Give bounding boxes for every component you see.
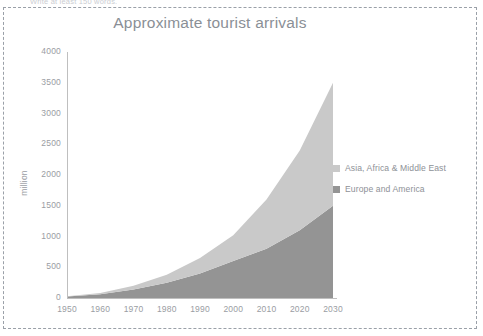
- series-layer: [67, 83, 333, 298]
- y-axis-tick-label: 3000: [15, 108, 61, 118]
- x-axis-tick-label: 2020: [283, 304, 317, 314]
- legend-item-label: Asia, Africa & Middle East: [345, 163, 446, 173]
- legend-swatch-icon: [333, 165, 340, 172]
- x-axis-tick-label: 2030: [316, 304, 350, 314]
- y-axis-tick-label: 1000: [15, 231, 61, 241]
- legend-item[interactable]: Europe and America: [333, 184, 446, 194]
- x-axis-tick-label: 1960: [83, 304, 117, 314]
- y-axis-tick-label: 2500: [15, 138, 61, 148]
- y-axis-title: million: [19, 153, 29, 213]
- x-axis-tick-label: 1980: [150, 304, 184, 314]
- x-axis-tick-label: 2010: [250, 304, 284, 314]
- y-axis-tick-label: 3500: [15, 77, 61, 87]
- legend-item[interactable]: Asia, Africa & Middle East: [333, 163, 446, 173]
- chart-legend: Asia, Africa & Middle EastEurope and Ame…: [333, 163, 446, 205]
- legend-swatch-icon: [333, 186, 340, 193]
- x-axis-tick-label: 1990: [183, 304, 217, 314]
- y-axis-tick-label: 500: [15, 261, 61, 271]
- y-axis-tick-label: 4000: [15, 46, 61, 56]
- x-axis-tick-label: 1970: [117, 304, 151, 314]
- y-axis-tick-label: 0: [15, 292, 61, 302]
- screenshot-root: Write at least 150 words. Approximate to…: [0, 0, 483, 336]
- legend-item-label: Europe and America: [345, 184, 425, 194]
- x-axis-tick-label: 1950: [50, 304, 84, 314]
- x-axis-tick-label: 2000: [216, 304, 250, 314]
